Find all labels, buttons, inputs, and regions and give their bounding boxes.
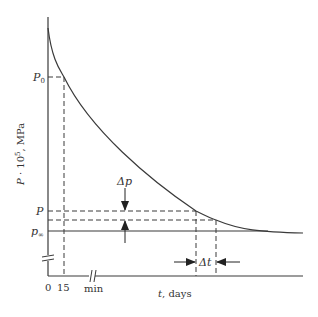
x-tick-15: 15 [57, 282, 70, 293]
pressure-decay-diagram: P0 P p∞ P · 105, MPa 0 15 min t, days Δp… [0, 0, 318, 317]
x-tick-min: min [84, 283, 104, 294]
x-axis-title: t, days [158, 288, 192, 299]
y-axis-break-icon [42, 255, 54, 261]
delta-p-arrows-icon [121, 188, 129, 243]
pressure-decay-curve [48, 28, 303, 233]
x-axis-break-icon [89, 270, 96, 282]
p0-label: P0 [32, 71, 45, 85]
p-label: P [35, 205, 44, 218]
delta-p-label: Δp [116, 175, 132, 188]
p-infinity-label: p∞ [31, 225, 44, 239]
y-axis-title: P · 105, MPa [14, 123, 26, 186]
x-tick-0: 0 [45, 282, 51, 293]
delta-t-label: Δt [198, 256, 212, 269]
